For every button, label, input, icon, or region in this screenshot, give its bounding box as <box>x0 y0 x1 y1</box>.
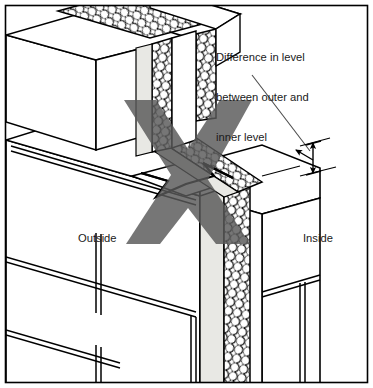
callout-line-1: Difference in level <box>216 51 309 64</box>
outside-label: Outside <box>78 232 117 245</box>
inside-label: Inside <box>303 232 333 245</box>
construction-detail-drawing <box>0 0 373 388</box>
upper-insulation-face <box>196 29 216 121</box>
inner-leaf-inside-face <box>262 198 320 388</box>
callout-line-2: between outer and <box>216 91 309 104</box>
difference-in-level-callout: Difference in level between outer and in… <box>216 25 309 170</box>
figure-root: Difference in level between outer and in… <box>0 0 373 388</box>
callout-line-3: inner level <box>216 131 309 144</box>
